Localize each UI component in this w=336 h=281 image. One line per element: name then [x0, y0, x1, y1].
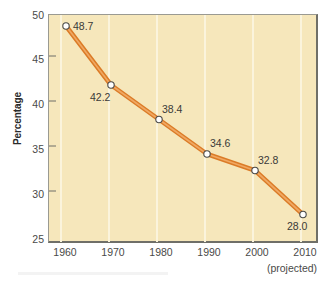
point-label-1960: 48.7: [73, 21, 93, 32]
x-tick-label-1990: 1990: [186, 247, 232, 258]
x-tick-label-1970: 1970: [90, 247, 136, 258]
plot-canvas: [49, 15, 317, 242]
x-tick-label-1960: 1960: [42, 247, 88, 258]
x-tick-label-1980: 1980: [138, 247, 184, 258]
data-point-markers: [63, 23, 306, 218]
point-label-1970: 42.2: [90, 92, 110, 103]
plot-area: 48.7 42.2 38.4 34.6 32.8 28.0: [48, 14, 318, 243]
y-tick-marks: [49, 56, 56, 191]
scan-artifact: [18, 272, 168, 275]
point-label-2000: 32.8: [258, 155, 278, 166]
y-tick-label-50: 50: [18, 10, 44, 21]
series-line-body: [66, 26, 303, 215]
point-label-1980: 38.4: [162, 104, 182, 115]
point-label-2010: 28.0: [287, 221, 307, 232]
y-tick-label-30: 30: [18, 189, 44, 200]
line-chart-figure: Percentage 50 45 40 35 30 25: [0, 0, 336, 281]
projected-note: (projected): [252, 263, 332, 274]
y-tick-label-45: 45: [18, 54, 44, 65]
gridlines: [61, 15, 301, 242]
y-tick-label-25: 25: [18, 234, 44, 245]
y-tick-label-40: 40: [18, 99, 44, 110]
y-tick-label-35: 35: [18, 144, 44, 155]
series-line-highlight: [66, 26, 303, 215]
x-tick-label-2010: 2010: [282, 247, 328, 258]
x-tick-label-2000: 2000: [234, 247, 280, 258]
point-label-1990: 34.6: [210, 138, 230, 149]
